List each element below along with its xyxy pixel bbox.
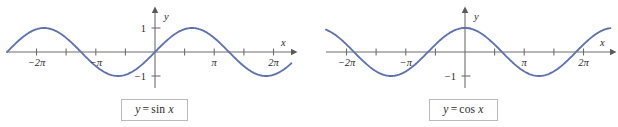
sine-caption-lhs: y [135,103,140,115]
cosine-xtick-label-2pi: 2π [578,57,589,68]
sine-xtick-label-neg2pi: −2π [28,57,46,68]
cosine-caption-box: y=cos x [429,99,497,121]
sine-y-axis-label: y [163,11,169,22]
sine-ytick-label-1: 1 [141,23,146,34]
cosine-graph-panel: y x −2π −π π 2π −1 y=cos x [309,0,618,127]
sine-xtick-label-2pi: 2π [268,57,279,68]
cosine-x-axis-label: x [599,37,605,48]
sine-caption-wrap: y=sin x [0,99,309,121]
cosine-xtick-label-neg2pi: −2π [338,57,356,68]
sine-caption-argument: x [168,103,173,115]
sine-xtick-label-negpi: −π [90,57,103,68]
cosine-caption-wrap: y=cos x [309,99,618,121]
trig-graphs-figure: y x −2π −π π 2π 1 −1 y=sin x [0,0,618,127]
cosine-xtick-label-negpi: −π [400,57,413,68]
cosine-caption-function: cos [459,103,475,115]
cosine-y-axis-label: y [473,11,479,22]
sine-ytick-label-neg1: −1 [135,71,146,82]
sine-caption-function: sin [151,103,165,115]
sine-graph-panel: y x −2π −π π 2π 1 −1 y=sin x [0,0,309,127]
cosine-caption-lhs: y [443,103,448,115]
sine-xtick-label-pi: π [212,57,218,68]
sine-caption-box: y=sin x [121,99,187,121]
sine-x-axis-label: x [280,37,286,48]
sine-plot-area: y x −2π −π π 2π 1 −1 [0,0,309,95]
sine-caption-operator: = [141,103,152,115]
cosine-ytick-label-neg1: −1 [445,71,456,82]
cosine-caption-operator: = [449,103,460,115]
cosine-plot-area: y x −2π −π π 2π −1 [309,0,618,95]
cosine-caption-argument: x [478,103,483,115]
cosine-xtick-label-pi: π [522,57,528,68]
